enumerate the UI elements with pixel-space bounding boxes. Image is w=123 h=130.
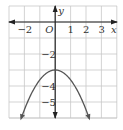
x-tick-label: 1 <box>68 24 74 35</box>
x-axis-label: x <box>111 24 117 35</box>
y-tick-label: −4 <box>41 81 56 92</box>
y-tick-label: −2 <box>41 49 56 60</box>
coordinate-plane: −2123−2−4−5Oxy <box>0 0 123 130</box>
origin-label: O <box>45 24 53 35</box>
y-axis-label: y <box>57 5 64 16</box>
x-tick-label: −2 <box>17 24 32 35</box>
y-tick-label: −5 <box>41 97 56 108</box>
x-tick-label: 3 <box>98 24 104 35</box>
x-tick-label: 2 <box>83 24 89 35</box>
grid-lines <box>9 6 117 118</box>
